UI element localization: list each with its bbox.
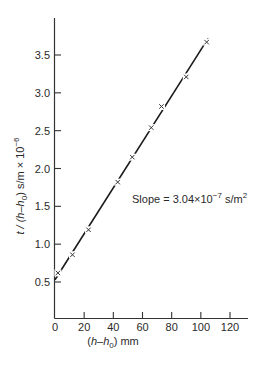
x-tick-label: 80 [166,321,178,333]
x-tick-label: 60 [136,321,148,333]
y-tick-label: 1.0 [35,238,50,250]
slope-unit: s/m [222,193,243,205]
x-marker [85,226,92,233]
y-label-exp: −6 [12,137,21,147]
x-marker [158,103,165,110]
y-tick-label: 1.5 [35,200,50,212]
slope-annotation: Slope = 3.04×10−7 s/m2 [132,191,248,205]
data-markers [54,39,210,277]
y-tick-label: 3.5 [35,49,50,61]
y-tick-label: 2.0 [35,163,50,175]
y-tick-label: 2.5 [35,125,50,137]
x-tick-label: 20 [78,321,90,333]
x-marker [148,124,155,131]
x-marker [203,39,210,46]
y-axis-label: t / (h–h0) s/m × 10−6 [12,137,29,235]
y-tick-label: 0.5 [35,276,50,288]
x-ticks: 020406080100120 [52,312,239,333]
x-marker [183,73,190,80]
x-tick-label: 40 [107,321,119,333]
x-tick-label: 0 [52,321,58,333]
x-marker [54,269,61,276]
chart: 0.51.01.52.02.53.03.5 020406080100120 t … [0,0,273,368]
x-marker [69,251,76,258]
x-tick-label: 100 [192,321,210,333]
slope-unit-exp: 2 [243,191,248,200]
y-ticks: 0.51.01.52.02.53.03.5 [35,49,61,288]
x-marker [129,154,136,161]
y-label-main: t / (h–h [14,200,26,234]
slope-main: Slope = 3.04×10 [132,193,213,205]
x-marker [114,179,121,186]
x-label-suffix: ) mm [114,335,139,347]
y-tick-label: 3.0 [35,87,50,99]
x-tick-label: 120 [221,321,239,333]
x-axis-label: (h–h0) mm [87,335,139,350]
y-label-rest: ) s/m × 10 [14,147,26,196]
